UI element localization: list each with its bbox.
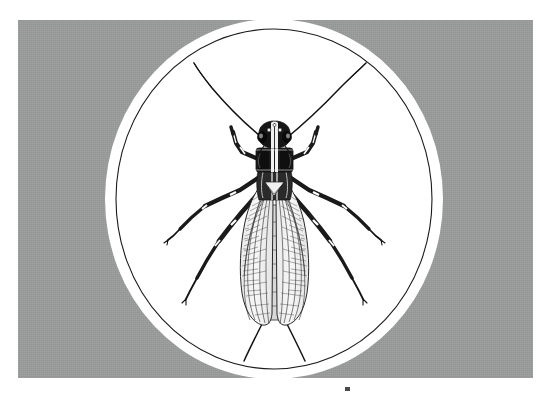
pronotum [256, 148, 293, 172]
ocellus-left [267, 128, 271, 132]
specimen-plate [0, 0, 549, 395]
bottom-register-tick [345, 387, 350, 391]
illustration-page [0, 0, 549, 395]
caption-strip [0, 379, 549, 395]
ocellus-median [273, 124, 276, 127]
thorax [257, 168, 293, 200]
ocellus-right [278, 128, 282, 132]
